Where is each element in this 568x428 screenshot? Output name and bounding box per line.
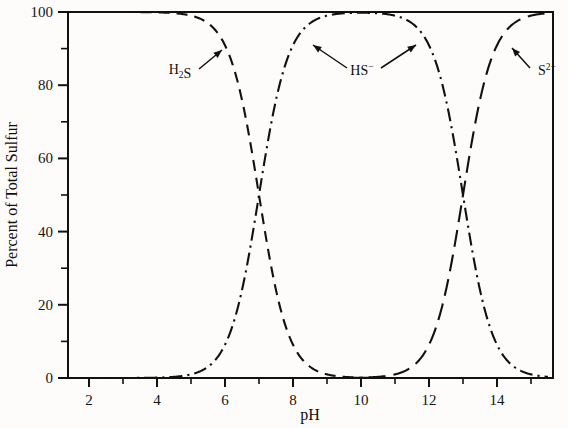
y-tick-label: 100 <box>31 4 54 20</box>
chart-canvas: 2468101214 020406080100 H2SHS−S2− pH Per… <box>0 0 568 428</box>
y-tick-label: 80 <box>38 77 53 93</box>
x-tick-label: 2 <box>85 392 93 408</box>
x-axis-title: pH <box>300 406 320 424</box>
plot-frame <box>68 12 553 378</box>
x-tick-label: 12 <box>422 392 437 408</box>
series-s2- <box>69 13 548 378</box>
x-tick-label: 8 <box>289 392 297 408</box>
y-axis-title: Percent of Total Sulfur <box>3 122 20 268</box>
x-tick-label: 4 <box>153 392 161 408</box>
series-h2s <box>69 12 548 378</box>
x-tick-label: 14 <box>490 392 506 408</box>
y-tick-label: 20 <box>38 297 53 313</box>
x-tick-label: 6 <box>221 392 229 408</box>
x-axis-tick-labels: 2468101214 <box>85 392 505 408</box>
h2s-arrow <box>199 50 222 69</box>
hs-label: HS− <box>350 62 373 78</box>
y-tick-label: 40 <box>38 224 53 240</box>
y-tick-label: 0 <box>46 370 54 386</box>
h2s-label: H2S <box>169 62 192 81</box>
series-hs- <box>69 13 548 378</box>
s2-arrow <box>512 48 530 68</box>
hs-arrow-right <box>381 45 416 68</box>
hs-arrow-left <box>313 45 347 68</box>
figure-sulfur-speciation: 2468101214 020406080100 H2SHS−S2− pH Per… <box>0 0 568 428</box>
y-axis-tick-labels: 020406080100 <box>31 4 54 386</box>
y-tick-label: 60 <box>38 150 53 166</box>
x-tick-label: 10 <box>354 392 369 408</box>
x-axis-ticks <box>89 378 531 387</box>
chart-annotations-group: H2SHS−S2− <box>169 45 556 81</box>
chart-series-group <box>69 12 548 378</box>
y-axis-ticks <box>58 12 68 378</box>
